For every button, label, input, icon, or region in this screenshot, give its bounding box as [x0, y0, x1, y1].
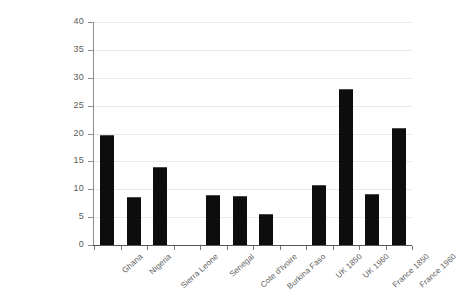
y-tick-label: 30	[0, 73, 84, 82]
y-tick-label: 25	[0, 101, 84, 110]
bar	[392, 128, 406, 245]
x-tick-mark	[359, 246, 360, 250]
bar	[153, 167, 167, 245]
x-axis-label: Nigeria	[147, 252, 172, 276]
bar	[206, 195, 220, 245]
x-tick-mark	[94, 246, 95, 250]
x-axis-label: Ghana	[121, 252, 145, 275]
x-axis-label: Senegal	[228, 252, 256, 279]
y-tick-label-wrap: 5	[0, 212, 84, 221]
x-axis-label: UK 1850	[334, 252, 364, 280]
bar	[127, 197, 141, 245]
y-tick-label-wrap: 25	[0, 101, 84, 110]
x-tick-mark	[227, 246, 228, 250]
y-tick-label-wrap: 30	[0, 73, 84, 82]
y-tick-label: 15	[0, 156, 84, 165]
bar	[259, 214, 273, 245]
x-tick-mark	[121, 246, 122, 250]
y-tick-label: 5	[0, 212, 84, 221]
x-tick-mark	[333, 246, 334, 250]
x-tick-mark	[147, 246, 148, 250]
plot-area	[94, 22, 412, 245]
y-tick-label-wrap: 40	[0, 17, 84, 26]
x-tick-mark	[174, 246, 175, 250]
x-tick-mark	[412, 246, 413, 250]
bar	[339, 89, 353, 245]
y-tick-label: 10	[0, 184, 84, 193]
x-tick-mark	[253, 246, 254, 250]
x-axis-label: UK 1960	[361, 252, 391, 280]
y-tick-label-wrap: 0	[0, 240, 84, 249]
y-tick-label: 40	[0, 17, 84, 26]
y-tick-label-wrap: 15	[0, 156, 84, 165]
bar	[365, 194, 379, 245]
y-tick-label-wrap: 20	[0, 129, 84, 138]
x-axis-label: Sierra Leone	[179, 252, 220, 290]
x-tick-mark	[280, 246, 281, 250]
y-tick-label-wrap: 35	[0, 45, 84, 54]
y-tick-label: 20	[0, 129, 84, 138]
y-tick-label: 35	[0, 45, 84, 54]
x-tick-mark	[386, 246, 387, 250]
bar	[100, 135, 114, 245]
y-tick-label: 0	[0, 240, 84, 249]
x-tick-mark	[200, 246, 201, 250]
y-tick-label-wrap: 10	[0, 184, 84, 193]
bar	[233, 196, 247, 245]
x-tick-mark	[306, 246, 307, 250]
bar	[312, 185, 326, 245]
